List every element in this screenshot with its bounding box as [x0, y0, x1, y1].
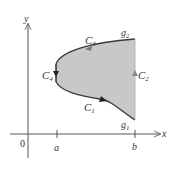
- diagram-canvas: C3 g2 C4 C2 C1 g1 y x 0 a b: [0, 0, 178, 173]
- x-axis-label: x: [161, 128, 167, 139]
- origin-label: 0: [20, 138, 25, 149]
- label-c4: C4: [42, 69, 53, 83]
- y-axis-label: y: [23, 13, 29, 24]
- region-diagram: C3 g2 C4 C2 C1 g1 y x 0 a b: [0, 0, 178, 173]
- tick-label-a: a: [54, 142, 59, 153]
- shaded-region: [56, 39, 135, 120]
- label-g1: g1: [121, 119, 130, 132]
- label-c3: C3: [85, 34, 96, 48]
- label-g2: g2: [121, 27, 130, 40]
- tick-label-b: b: [132, 141, 137, 152]
- label-c2: C2: [138, 69, 149, 83]
- label-c1: C1: [84, 101, 95, 115]
